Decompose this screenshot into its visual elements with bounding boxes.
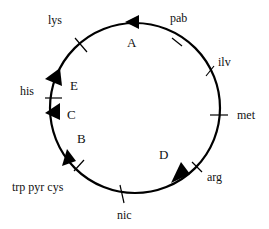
gene-label-nic: nic (117, 208, 132, 222)
gene-label-arg: arg (207, 170, 222, 184)
gene-label-trp-pyr-cys: trp pyr cys (12, 180, 64, 194)
segment-labels: A B C D E (67, 35, 168, 162)
arrow-lower-left-icon (62, 149, 76, 166)
segment-label-b: B (77, 131, 86, 146)
segment-label-e: E (70, 78, 78, 93)
arrow-left-icon (45, 103, 60, 120)
gene-label-his: his (20, 84, 34, 98)
segment-label-d: D (159, 147, 168, 162)
segment-label-c: C (67, 107, 76, 122)
circular-genetic-map: pab ilv met arg nic trp pyr cys his lys … (0, 0, 269, 229)
segment-label-a: A (127, 35, 137, 50)
tick-pab (172, 38, 182, 46)
arrow-top-icon (125, 15, 139, 29)
gene-label-met: met (237, 108, 256, 122)
gene-label-pab: pab (170, 11, 187, 25)
tick-trp-pyr-cys (74, 160, 84, 171)
gene-label-ilv: ilv (218, 55, 231, 69)
gene-label-lys: lys (48, 13, 62, 27)
tick-nic (120, 185, 124, 203)
